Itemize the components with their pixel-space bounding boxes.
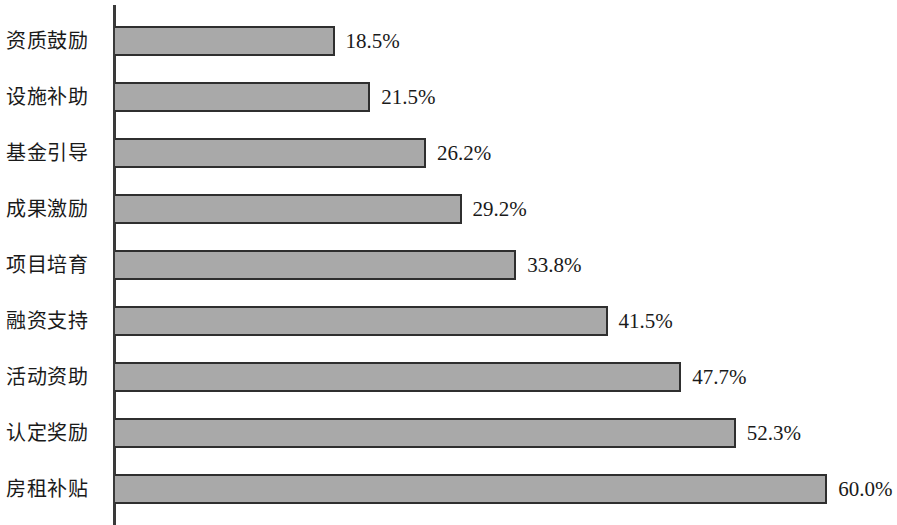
bar-value-label: 21.5%: [381, 82, 435, 112]
category-label: 设施补助: [0, 80, 106, 114]
category-label: 项目培育: [0, 248, 106, 282]
category-label: 房租补贴: [0, 472, 106, 506]
bar-row: 设施补助21.5%: [0, 80, 897, 114]
bar: [115, 82, 370, 112]
bar: [115, 194, 462, 224]
bar: [115, 250, 516, 280]
bar-value-label: 60.0%: [838, 474, 892, 504]
bar-row: 项目培育33.8%: [0, 248, 897, 282]
bar: [115, 26, 335, 56]
bar-row: 融资支持41.5%: [0, 304, 897, 338]
category-label: 活动资助: [0, 360, 106, 394]
category-label: 基金引导: [0, 136, 106, 170]
category-label: 资质鼓励: [0, 24, 106, 58]
bar: [115, 474, 827, 504]
bar: [115, 138, 426, 168]
bar-value-label: 26.2%: [437, 138, 491, 168]
bar-row: 资质鼓励18.5%: [0, 24, 897, 58]
category-label: 认定奖励: [0, 416, 106, 450]
bar-row: 认定奖励52.3%: [0, 416, 897, 450]
horizontal-bar-chart: 资质鼓励18.5%设施补助21.5%基金引导26.2%成果激励29.2%项目培育…: [0, 0, 897, 525]
bar-value-label: 41.5%: [619, 306, 673, 336]
bar-value-label: 18.5%: [346, 26, 400, 56]
bar-row: 基金引导26.2%: [0, 136, 897, 170]
bar: [115, 418, 736, 448]
bar-row: 活动资助47.7%: [0, 360, 897, 394]
category-label: 融资支持: [0, 304, 106, 338]
bar-row: 房租补贴60.0%: [0, 472, 897, 506]
bar-value-label: 33.8%: [527, 250, 581, 280]
category-label: 成果激励: [0, 192, 106, 226]
bar-value-label: 47.7%: [692, 362, 746, 392]
bar-value-label: 29.2%: [473, 194, 527, 224]
bar: [115, 306, 608, 336]
bar-value-label: 52.3%: [747, 418, 801, 448]
bar: [115, 362, 681, 392]
bar-row: 成果激励29.2%: [0, 192, 897, 226]
